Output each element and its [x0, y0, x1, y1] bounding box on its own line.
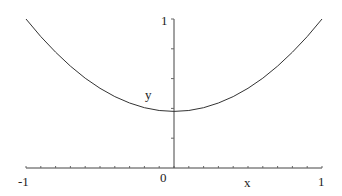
x-axis-label: x	[244, 175, 251, 190]
y-tick-max: 1	[161, 13, 168, 28]
x-tick-zero: 0	[160, 170, 167, 185]
x-tick-min: -1	[18, 174, 29, 189]
x-tick-max: 1	[318, 174, 325, 189]
plot-canvas: -1 0 1 1 x y	[0, 0, 342, 196]
y-axis-label: y	[145, 87, 152, 102]
y-axis	[171, 19, 174, 168]
